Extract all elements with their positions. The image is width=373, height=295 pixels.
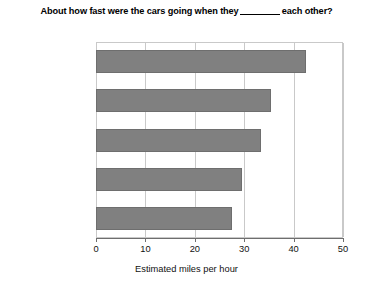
bar-chart-figure: About how fast were the cars going when …	[0, 0, 373, 295]
bar-fill	[96, 129, 261, 152]
x-tick-label: 20	[175, 244, 215, 254]
x-tick-20	[195, 238, 196, 242]
bar	[96, 50, 306, 73]
x-tick-label: 50	[323, 244, 363, 254]
x-axis-title: Estimated miles per hour	[0, 264, 373, 274]
x-tick-0	[96, 238, 97, 242]
x-tick-40	[294, 238, 295, 242]
bar-fill	[96, 50, 306, 73]
chart-title-suffix: each other?	[282, 6, 333, 16]
x-tick-label: 30	[224, 244, 264, 254]
bar	[96, 129, 261, 152]
x-tick-30	[244, 238, 245, 242]
bar	[96, 168, 242, 191]
x-tick-10	[145, 238, 146, 242]
chart-title-prefix: About how fast were the cars going when …	[40, 6, 238, 16]
x-tick-label: 0	[76, 244, 116, 254]
x-tick-50	[343, 238, 344, 242]
fill-in-blank-line	[240, 14, 280, 15]
bar	[96, 207, 232, 230]
x-tick-label: 10	[125, 244, 165, 254]
bar-fill	[96, 89, 271, 112]
chart-title: About how fast were the cars going when …	[0, 6, 373, 16]
x-tick-label: 40	[274, 244, 314, 254]
gridline-50	[343, 43, 344, 237]
bar-fill	[96, 207, 232, 230]
bar	[96, 89, 271, 112]
bar-fill	[96, 168, 242, 191]
x-axis-line	[96, 238, 344, 239]
